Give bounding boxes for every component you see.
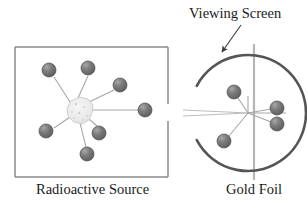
rutherford-gold-foil-diagram: Viewing Screen Radioactive Source Gold F… xyxy=(0,0,307,212)
scatter-ray xyxy=(248,113,271,122)
scatter-ray xyxy=(248,109,271,113)
radioactive-source-label: Radioactive Source xyxy=(36,182,149,197)
alpha-particle-icon xyxy=(42,63,56,77)
scatter-ray xyxy=(238,98,248,113)
alpha-particle-icon xyxy=(39,124,53,138)
gold-foil-label: Gold Foil xyxy=(226,182,282,197)
alpha-particle-icon xyxy=(270,117,284,131)
scatter-ray xyxy=(229,113,248,136)
emission-ray xyxy=(80,123,86,147)
left-alpha-particles xyxy=(39,61,152,161)
emission-ray xyxy=(89,119,97,126)
alpha-particle-icon xyxy=(227,85,241,99)
radioactive-source-blob xyxy=(67,97,93,124)
detector-group xyxy=(183,25,306,180)
emission-ray xyxy=(54,77,70,102)
alpha-particle-icon xyxy=(270,101,284,115)
alpha-particle-icon xyxy=(113,78,127,92)
emission-ray xyxy=(89,90,114,102)
alpha-particle-icon xyxy=(92,126,106,140)
viewing-screen-label: Viewing Screen xyxy=(189,6,281,21)
source-chamber-group xyxy=(15,47,168,177)
viewing-screen-pointer-arrow-icon xyxy=(222,25,241,52)
emission-ray xyxy=(78,76,88,98)
beam-edge-top xyxy=(183,110,248,113)
alpha-particle-icon xyxy=(138,103,152,117)
incident-beam xyxy=(183,110,248,116)
beam-edge-bottom xyxy=(183,113,248,116)
right-alpha-particles xyxy=(217,85,284,148)
alpha-particle-icon xyxy=(80,147,94,161)
alpha-particle-icon xyxy=(217,134,231,148)
alpha-particle-icon xyxy=(81,61,95,75)
emission-ray xyxy=(54,117,70,128)
